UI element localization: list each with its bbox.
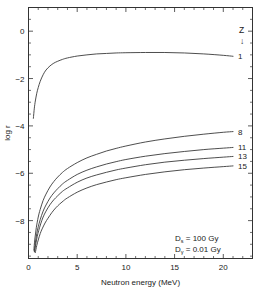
figure-container: 05101520 0−2−4−6−8 18111315 Z↓ Ds = 100 … [0, 0, 259, 295]
y-tick-label: −8 [15, 217, 25, 226]
chart-canvas: 05101520 0−2−4−6−8 18111315 Z↓ Ds = 100 … [0, 0, 259, 295]
x-tick-label: 10 [121, 263, 130, 272]
annotation-dose-2: Dγ = 0.01 Gy [175, 245, 221, 255]
y-tick-label: −6 [15, 169, 25, 178]
x-tick-label: 20 [219, 263, 228, 272]
dose-annotations: Ds = 100 GyDγ = 0.01 Gy [175, 234, 221, 255]
y-axis-title: log r [3, 125, 12, 141]
svg-text:Dγ = 0.01 Gy: Dγ = 0.01 Gy [175, 245, 221, 255]
series-label-z-1: 1 [238, 52, 243, 61]
x-axis-title: Neutron energy (MeV) [101, 278, 180, 287]
series-label-z-15: 15 [238, 162, 247, 171]
curve-z-1 [33, 52, 233, 118]
y-tick-label: −2 [15, 75, 25, 84]
y-tick-label: 0 [20, 27, 25, 36]
series-label-z-11: 11 [238, 143, 247, 152]
series-label-z-13: 13 [238, 152, 247, 161]
y-tick-label: −4 [15, 122, 25, 131]
legend-down-arrow-icon: ↓ [240, 36, 244, 46]
data-curves [33, 52, 233, 252]
svg-text:Ds = 100 Gy: Ds = 100 Gy [175, 234, 218, 244]
legend-z-header: Z↓ [239, 25, 244, 46]
x-tick-label: 5 [75, 263, 80, 272]
annotation-dose-1: Ds = 100 Gy [175, 234, 218, 244]
legend-title-z: Z [239, 25, 244, 35]
x-tick-label: 0 [26, 263, 31, 272]
y-tick-labels: 0−2−4−6−8 [15, 27, 25, 225]
series-label-z-8: 8 [238, 128, 243, 137]
x-tick-labels: 05101520 [26, 263, 228, 272]
x-tick-label: 15 [170, 263, 179, 272]
series-labels: 18111315 [238, 52, 247, 171]
